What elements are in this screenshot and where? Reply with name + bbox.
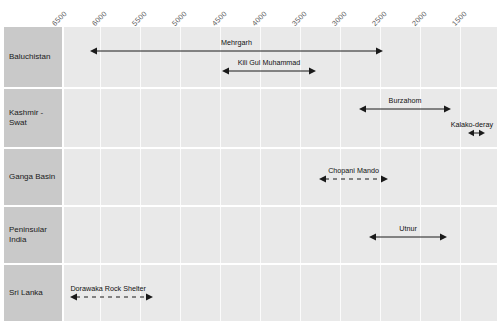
row-track-baluchistan: Mehrgarh Kili Gul Muhammad — [64, 27, 497, 87]
row-label-kashmir-swat: Kashmir - Swat — [4, 89, 64, 147]
gridline — [380, 27, 381, 87]
range-bar-chopani-mando[interactable]: Chopani Mando — [319, 173, 388, 185]
gridline — [180, 265, 181, 321]
axis-tick-6000: 6000 — [91, 10, 108, 27]
range-bar-kalako-deray[interactable]: Kalako-deray — [468, 127, 485, 139]
gridline — [380, 265, 381, 321]
gridline — [220, 89, 221, 147]
gridline — [220, 207, 221, 263]
range-label-kalako-deray: Kalako-deray — [451, 121, 493, 128]
gridline — [260, 149, 261, 205]
gridline — [140, 149, 141, 205]
axis-tick-5000: 5000 — [171, 10, 188, 27]
gridline — [180, 27, 181, 87]
row-track-ganga-basin: Chopani Mando — [64, 149, 497, 205]
row-track-sri-lanka: Dorawaka Rock Shelter — [64, 265, 497, 321]
gridline — [460, 207, 461, 263]
gridline — [140, 27, 141, 87]
gridline — [180, 149, 181, 205]
gridline — [340, 265, 341, 321]
row-label-baluchistan: Baluchistan — [4, 27, 64, 87]
gridline — [340, 207, 341, 263]
row-label-peninsular-india: Peninsular India — [4, 207, 64, 263]
range-label-burzahom: Burzahom — [389, 97, 422, 104]
range-bar-mehrgarh[interactable]: Mehrgarh — [90, 45, 383, 57]
axis-tick-5500: 5500 — [131, 10, 148, 27]
gridline — [460, 27, 461, 87]
table-row: Sri Lanka Dorawaka Rock Shelter — [4, 265, 497, 321]
table-row: Ganga Basin Chopani Mando — [4, 149, 497, 207]
gridline — [420, 27, 421, 87]
gridline — [340, 89, 341, 147]
gridline — [220, 27, 221, 87]
axis-tick-2000: 2000 — [411, 10, 428, 27]
row-track-peninsular-india: Utnur — [64, 207, 497, 263]
range-label-utnur: Utnur — [399, 225, 417, 232]
gridline — [220, 149, 221, 205]
range-label-mehrgarh: Mehrgarh — [221, 39, 252, 46]
axis-tick-4500: 4500 — [211, 10, 228, 27]
gridline — [100, 89, 101, 147]
axis-tick-2500: 2500 — [371, 10, 388, 27]
gridline — [140, 207, 141, 263]
gridline — [300, 149, 301, 205]
table-row: Kashmir - Swat Burzahom — [4, 89, 497, 149]
gridline — [100, 149, 101, 205]
gridline — [380, 89, 381, 147]
gridline — [140, 89, 141, 147]
top-axis: 6500 6000 5500 5000 4500 4000 3500 3000 … — [0, 0, 501, 28]
gridline — [180, 89, 181, 147]
gridline — [180, 207, 181, 263]
range-bar-utnur[interactable]: Utnur — [369, 231, 447, 243]
gridline — [260, 207, 261, 263]
timeline-chart: 6500 6000 5500 5000 4500 4000 3500 3000 … — [0, 0, 501, 327]
range-bar-dorawaka-rock-shelter[interactable]: Dorawaka Rock Shelter — [70, 291, 153, 303]
axis-tick-3500: 3500 — [291, 10, 308, 27]
gridline — [300, 265, 301, 321]
axis-tick-1500: 1500 — [451, 10, 468, 27]
gridline — [460, 149, 461, 205]
table-row: Peninsular India Utnur — [4, 207, 497, 265]
gridline — [460, 89, 461, 147]
gridline — [300, 207, 301, 263]
axis-tick-3000: 3000 — [331, 10, 348, 27]
range-bar-kili-gul-muhammad[interactable]: Kili Gul Muhammad — [222, 65, 316, 77]
row-label-sri-lanka: Sri Lanka — [4, 265, 64, 321]
gridline — [100, 27, 101, 87]
range-label-dorawaka-rock-shelter: Dorawaka Rock Shelter — [70, 285, 146, 292]
gridline — [460, 265, 461, 321]
range-label-chopani-mando: Chopani Mando — [328, 167, 379, 174]
row-track-kashmir-swat: Burzahom Kalako-deray — [64, 89, 497, 147]
gridline — [100, 207, 101, 263]
gridline — [220, 265, 221, 321]
range-label-kili-gul-muhammad: Kili Gul Muhammad — [238, 59, 301, 66]
axis-tick-4000: 4000 — [251, 10, 268, 27]
gridline — [420, 149, 421, 205]
table-row: Baluchistan Mehrgarh — [4, 27, 497, 89]
plot-area: Baluchistan Mehrgarh — [4, 27, 497, 323]
range-bar-burzahom[interactable]: Burzahom — [359, 103, 451, 115]
gridline — [340, 27, 341, 87]
gridline — [420, 265, 421, 321]
axis-tick-6500: 6500 — [51, 10, 68, 27]
gridline — [300, 89, 301, 147]
gridline — [260, 89, 261, 147]
row-label-ganga-basin: Ganga Basin — [4, 149, 64, 205]
gridline — [260, 265, 261, 321]
